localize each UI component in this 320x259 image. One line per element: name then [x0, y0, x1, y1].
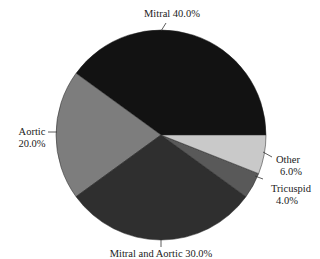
label-tricuspid-pct: 4.0% — [276, 195, 298, 206]
label-mitral: Mitral 40.0% — [144, 8, 200, 19]
label-other-name: Other — [276, 154, 300, 165]
pie-slices — [56, 30, 266, 240]
label-aortic-pct: 20.0% — [18, 138, 45, 149]
label-tricuspid-name: Tricuspid — [271, 183, 312, 194]
label-aortic-name: Aortic — [19, 126, 46, 137]
pie-chart: Mitral 40.0% Aortic 20.0% Other 6.0% Tri… — [0, 0, 320, 259]
label-mitral-aortic: Mitral and Aortic 30.0% — [110, 248, 213, 259]
label-other-pct: 6.0% — [280, 166, 302, 177]
